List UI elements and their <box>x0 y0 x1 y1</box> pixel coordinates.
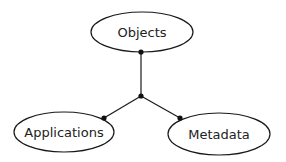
relationship-diagram: Objects Applications Metadata <box>0 0 286 162</box>
objects-label: Objects <box>117 25 166 40</box>
junction-dot-icon <box>138 93 143 98</box>
objects-port-dot-icon <box>138 49 143 54</box>
connection-dots <box>101 49 182 120</box>
node-objects[interactable]: Objects <box>91 12 193 52</box>
edge-junction-metadata <box>141 96 180 118</box>
metadata-port-dot-icon <box>177 115 182 120</box>
metadata-label: Metadata <box>188 127 250 142</box>
edges <box>104 52 180 118</box>
node-applications[interactable]: Applications <box>14 112 114 152</box>
applications-label: Applications <box>24 125 104 140</box>
applications-port-dot-icon <box>101 115 106 120</box>
node-metadata[interactable]: Metadata <box>168 113 270 155</box>
edge-junction-applications <box>104 96 141 118</box>
